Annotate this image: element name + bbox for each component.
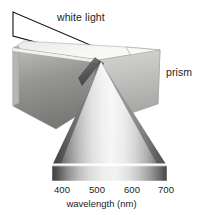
prism-left-edge <box>13 46 19 106</box>
tick-label-600: 600 <box>124 184 140 195</box>
x-axis-title: wavelength (nm) <box>0 198 203 209</box>
figure-artwork <box>0 0 203 215</box>
spectrum-strip <box>52 166 167 181</box>
spectrum-separator-line <box>52 164 167 166</box>
label-white-light: white light <box>57 11 105 23</box>
tick-label-400: 400 <box>54 184 70 195</box>
wavelength-tick-labels: 400 500 600 700 <box>0 184 203 197</box>
prism-dispersion-figure: white light prism 400 500 600 700 wavele… <box>0 0 203 215</box>
label-prism: prism <box>166 66 192 78</box>
tick-label-500: 500 <box>89 184 105 195</box>
tick-label-700: 700 <box>158 184 174 195</box>
